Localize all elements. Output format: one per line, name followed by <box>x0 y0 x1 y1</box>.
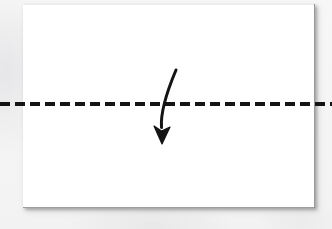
paper-sheet-right-edge <box>314 4 315 208</box>
paper-sheet-bottom-edge <box>23 207 315 208</box>
paper-sheet-top-edge <box>23 4 315 5</box>
paper-sheet <box>23 4 315 208</box>
diagram-canvas <box>0 0 332 229</box>
